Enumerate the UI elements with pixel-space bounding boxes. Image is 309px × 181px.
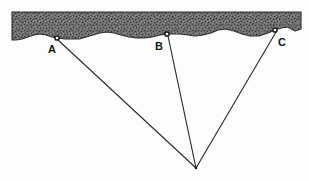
hypocenter-point-group: [195, 167, 198, 170]
station-label-a: A: [48, 43, 56, 55]
station-labels-group: ABC: [48, 36, 286, 55]
ray-B-to-focus: [168, 36, 196, 168]
seismic-ray-diagram: ABC: [0, 0, 309, 181]
diagram-canvas: ABC: [0, 0, 309, 181]
station-marker-a: [55, 36, 59, 40]
ray-A-to-focus: [58, 40, 196, 168]
station-marker-c: [273, 28, 277, 32]
ray-C-to-focus: [196, 32, 276, 168]
ray-paths-group: [58, 32, 276, 168]
station-label-c: C: [278, 36, 286, 48]
hypocenter-point: [195, 167, 198, 170]
station-marker-b: [165, 32, 169, 36]
station-label-b: B: [155, 40, 163, 52]
